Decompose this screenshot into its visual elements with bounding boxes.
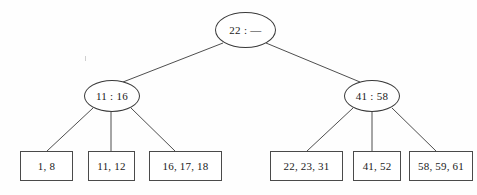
internal-node-right-label: 41 : 58	[356, 91, 389, 102]
edge-right-internal-to-leaf-6	[392, 108, 436, 151]
edge-root-to-right-internal	[266, 43, 360, 82]
edge-right-internal-to-leaf-4	[307, 108, 353, 151]
edge-left-internal-to-leaf-1	[47, 108, 93, 151]
edge-left-internal-to-leaf-3	[131, 108, 175, 151]
leaf-box-6-label: 58, 59, 61	[418, 161, 464, 172]
leaf-box-5-label: 41, 52	[363, 161, 392, 172]
tree-diagram-canvas: 22 : — 11 : 16 41 : 58 1, 8 11, 12 16, 1…	[0, 0, 477, 195]
internal-node-left[interactable]: 11 : 16	[84, 80, 140, 112]
leaf-box-3-label: 16, 17, 18	[163, 161, 209, 172]
scan-artifact	[85, 56, 86, 61]
leaf-box-5[interactable]: 41, 52	[353, 151, 401, 181]
leaf-box-3[interactable]: 16, 17, 18	[149, 151, 222, 181]
leaf-box-6[interactable]: 58, 59, 61	[409, 151, 473, 181]
leaf-box-2-label: 11, 12	[97, 161, 125, 172]
leaf-box-4-label: 22, 23, 31	[284, 161, 330, 172]
root-node[interactable]: 22 : —	[215, 12, 276, 48]
edge-root-to-left-internal	[123, 43, 223, 82]
leaf-box-1-label: 1, 8	[38, 161, 55, 172]
leaf-box-1[interactable]: 1, 8	[20, 151, 73, 181]
internal-node-left-label: 11 : 16	[96, 91, 128, 102]
leaf-box-4[interactable]: 22, 23, 31	[270, 151, 343, 181]
root-node-label: 22 : —	[229, 25, 261, 36]
internal-node-right[interactable]: 41 : 58	[344, 80, 400, 112]
leaf-box-2[interactable]: 11, 12	[88, 151, 135, 181]
